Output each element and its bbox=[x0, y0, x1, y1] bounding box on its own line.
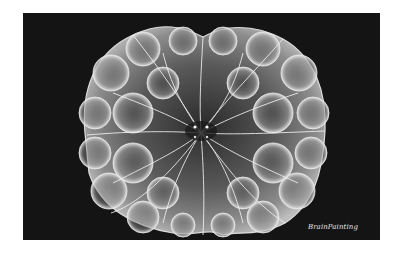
artwork-frame: BrainPainting bbox=[23, 13, 380, 240]
fractal-image bbox=[23, 13, 380, 240]
artist-signature: BrainPainting bbox=[308, 223, 358, 231]
